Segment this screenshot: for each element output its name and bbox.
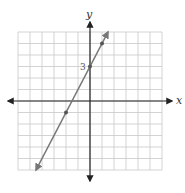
y-intercept-label: 3 xyxy=(80,62,86,72)
data-point xyxy=(64,111,68,115)
coordinate-graph: x y 3 xyxy=(0,0,185,193)
y-axis-label: y xyxy=(85,8,93,21)
data-point xyxy=(88,65,92,69)
data-point xyxy=(100,42,104,46)
x-axis-label: x xyxy=(176,94,183,107)
